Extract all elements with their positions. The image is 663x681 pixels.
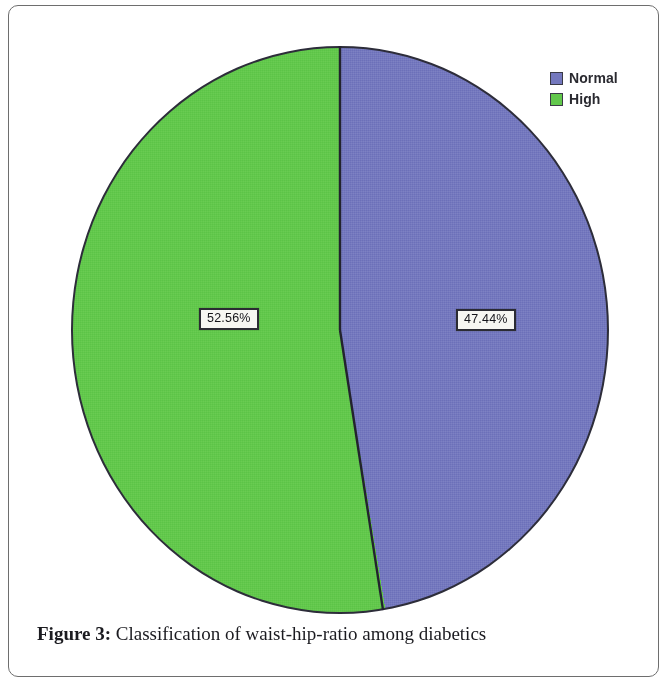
figure-caption-text: Classification of waist-hip-ratio among …: [111, 623, 486, 644]
legend-item-high[interactable]: High: [550, 89, 660, 109]
legend-item-normal[interactable]: Normal: [550, 68, 660, 88]
pie-chart: 52.56% 47.44% Normal High: [9, 6, 663, 618]
pie-graphic: [71, 46, 609, 614]
pie-texture-overlay: [73, 48, 607, 612]
chart-legend: Normal High: [550, 68, 660, 110]
figure-caption-label: Figure 3:: [37, 623, 111, 644]
legend-swatch-high-icon: [550, 93, 563, 106]
figure-caption: Figure 3: Classification of waist-hip-ra…: [37, 623, 647, 645]
legend-swatch-normal-icon: [550, 72, 563, 85]
legend-label-normal: Normal: [569, 70, 618, 86]
figure-frame: 52.56% 47.44% Normal High Figure 3: Clas…: [8, 5, 659, 677]
pie-wrapper: [71, 46, 609, 614]
slice-value-label-normal: 47.44%: [456, 309, 516, 331]
legend-label-high: High: [569, 91, 601, 107]
slice-value-label-high: 52.56%: [199, 308, 259, 330]
